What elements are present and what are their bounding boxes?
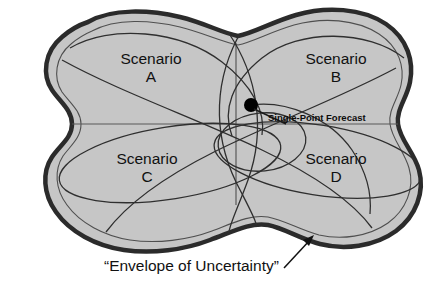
scenario-d-letter: D	[288, 168, 384, 186]
scenario-label-d: Scenario D	[288, 150, 384, 186]
scenario-c-letter: C	[99, 168, 195, 186]
envelope-of-uncertainty-caption: “Envelope of Uncertainty”	[104, 257, 279, 275]
arrow-shaft	[284, 240, 310, 268]
scenario-b-letter: B	[288, 68, 384, 86]
scenario-d-name: Scenario	[305, 150, 366, 167]
scenario-b-name: Scenario	[305, 50, 366, 67]
single-point-forecast-label: Single-Point Forecast	[268, 112, 366, 123]
envelope-callout-arrow	[284, 235, 314, 268]
scenario-a-letter: A	[103, 68, 199, 86]
scenario-label-c: Scenario C	[99, 150, 195, 186]
diagram-canvas	[0, 0, 448, 287]
scenario-a-name: Scenario	[120, 50, 181, 67]
uncertainty-diagram: Scenario A Scenario B Scenario C Scenari…	[0, 0, 448, 287]
scenario-label-a: Scenario A	[103, 50, 199, 86]
scenario-c-name: Scenario	[116, 150, 177, 167]
scenario-label-b: Scenario B	[288, 50, 384, 86]
